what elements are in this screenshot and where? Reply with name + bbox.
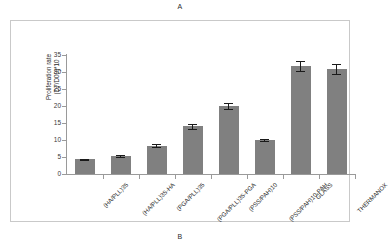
x-axis-category-label: (HA/PLL)35-HA [141,181,176,216]
error-bar-cap [224,109,233,110]
y-axis-tick-label: 35 [15,51,61,58]
bar-group[interactable] [103,55,139,174]
y-axis-title: Proliferation rate (D7/D00)*10 [45,29,61,125]
x-axis-tick [247,175,248,179]
error-bar-cap [116,155,125,156]
y-axis-tick [62,140,66,141]
plot-area [67,55,355,174]
bar[interactable] [327,69,347,174]
x-axis-tick [355,175,356,179]
x-axis-category-label: GLASS [314,181,334,201]
error-bar-cap [296,61,305,62]
error-bar-cap [332,64,341,65]
error-bar-cap [260,141,269,142]
y-axis-tick [62,106,66,107]
y-axis-tick [62,174,66,175]
y-axis-tick [62,123,66,124]
x-axis-tick [283,175,284,179]
error-bar [336,64,337,74]
bar[interactable] [111,156,131,174]
error-bar-cap [152,144,161,145]
y-axis-tick-label: 10 [15,136,61,143]
bar[interactable] [219,106,239,174]
y-axis-tick-label: 25 [15,85,61,92]
bar-group[interactable] [175,55,211,174]
y-axis-tick-label: 30 [15,68,61,75]
error-bar-cap [332,74,341,75]
x-axis-category-label: THERMANOX [356,181,389,214]
error-bar-cap [188,129,197,130]
x-axis-category-label: (PGA/PLL)35 [175,181,206,212]
y-axis-tick-label: 20 [15,102,61,109]
error-bar-cap [116,157,125,158]
x-axis-tick [139,175,140,179]
y-axis-tick-label: 5 [15,153,61,160]
bar[interactable] [75,159,95,174]
bar-group[interactable] [247,55,283,174]
error-bar-cap [188,124,197,125]
y-axis-tick [62,89,66,90]
bar-group[interactable] [139,55,175,174]
y-axis-tick [62,55,66,56]
bar-group[interactable] [319,55,355,174]
x-axis-tick [319,175,320,179]
bar[interactable] [147,146,167,174]
y-axis-tick [62,72,66,73]
bar-group[interactable] [283,55,319,174]
bar-group[interactable] [67,55,103,174]
x-axis-tick [175,175,176,179]
y-axis-tick-label: 15 [15,119,61,126]
x-axis-category-label: (HA/PLL)35 [101,181,129,209]
bar[interactable] [291,66,311,174]
y-axis-tick-label: 0 [15,170,61,177]
error-bar-cap [260,139,269,140]
x-axis-tick [211,175,212,179]
y-axis-tick [62,157,66,158]
error-bar-cap [152,147,161,148]
bar[interactable] [255,140,275,174]
error-bar [300,61,301,71]
error-bar-cap [80,160,89,161]
panel-letter-bottom: B [0,233,360,240]
error-bar-cap [224,103,233,104]
bar-group[interactable] [211,55,247,174]
error-bar-cap [296,71,305,72]
x-axis-tick [103,175,104,179]
figure-frame: Proliferation rate (D7/D00)*10 051015202… [10,20,350,222]
bar[interactable] [183,126,203,174]
panel-letter-top: A [0,3,360,10]
